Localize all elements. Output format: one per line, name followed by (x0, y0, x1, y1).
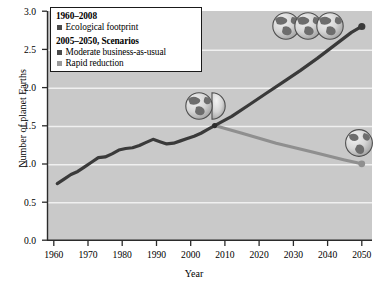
x-tick-label-1980: 1980 (105, 249, 139, 260)
legend-label-rapid-reduction: Rapid reduction (66, 58, 124, 70)
legend-item-ecological-footprint: Ecological footprint (56, 22, 197, 34)
y-axis-title: Number of planet Earths (17, 39, 28, 199)
x-tick-label-2020: 2020 (242, 249, 276, 260)
legend-swatch-moderate-business-as-usual (57, 50, 62, 55)
x-tick-label-2030: 2030 (276, 249, 310, 260)
globe-single (346, 130, 373, 157)
globe-cluster-three (273, 13, 343, 39)
x-tick-label-2050: 2050 (345, 249, 379, 260)
chart-legend: 1960–2008 Ecological footprint 2005–2050… (50, 7, 202, 72)
x-tick-label-1960: 1960 (37, 249, 71, 260)
series-rapid-reduction-endpoint (358, 160, 365, 167)
legend-heading-historical: 1960–2008 (56, 11, 197, 22)
scenario-branch-point (212, 123, 217, 128)
y-tick-label-0-5: 0.5 (10, 197, 36, 208)
chart-figure: 3.0 2.5 2.0 1.5 1.0 0.5 0.0 1960 1970 19… (0, 0, 388, 287)
series-moderate-endpoint (358, 23, 365, 30)
legend-swatch-rapid-reduction (57, 61, 62, 66)
x-tick-label-2010: 2010 (208, 249, 242, 260)
x-axis-title: Year (0, 268, 388, 279)
legend-label-moderate-business-as-usual: Moderate business-as-usual (66, 47, 166, 59)
x-tick-marks (54, 240, 362, 246)
x-tick-label-2040: 2040 (311, 249, 345, 260)
legend-label-ecological-footprint: Ecological footprint (66, 22, 139, 34)
x-tick-label-1990: 1990 (140, 249, 174, 260)
x-tick-label-2000: 2000 (174, 249, 208, 260)
legend-item-rapid-reduction: Rapid reduction (56, 58, 197, 70)
legend-item-moderate-business-as-usual: Moderate business-as-usual (56, 47, 197, 59)
x-tick-label-1970: 1970 (71, 249, 105, 260)
legend-heading-scenarios: 2005–2050, Scenarios (56, 36, 197, 47)
legend-swatch-ecological-footprint (57, 25, 62, 30)
y-tick-label-3-0: 3.0 (10, 6, 36, 17)
y-tick-label-0-0: 0.0 (10, 235, 36, 246)
globe-cluster-one-and-half (186, 93, 225, 119)
y-tick-marks (42, 11, 47, 240)
